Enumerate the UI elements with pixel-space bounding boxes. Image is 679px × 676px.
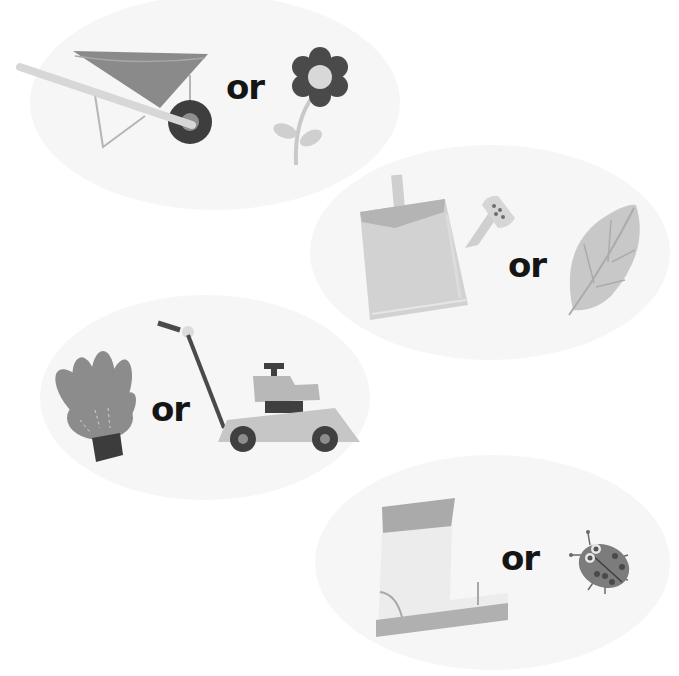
- ladybug-icon[interactable]: [569, 530, 636, 596]
- gardening-glove-icon[interactable]: [47, 351, 141, 462]
- wheelbarrow-icon[interactable]: [20, 51, 212, 147]
- or-label-2: or: [508, 248, 546, 282]
- lawn-mower-icon[interactable]: [158, 323, 360, 452]
- flower-icon[interactable]: [271, 47, 348, 165]
- leaf-icon[interactable]: [569, 205, 640, 315]
- illustration-canvas: [0, 0, 679, 676]
- or-label-3: or: [151, 392, 189, 426]
- or-label-4: or: [501, 541, 539, 575]
- watering-can-icon[interactable]: [360, 175, 515, 320]
- or-label-1: or: [226, 70, 264, 104]
- rain-boot-icon[interactable]: [376, 498, 508, 637]
